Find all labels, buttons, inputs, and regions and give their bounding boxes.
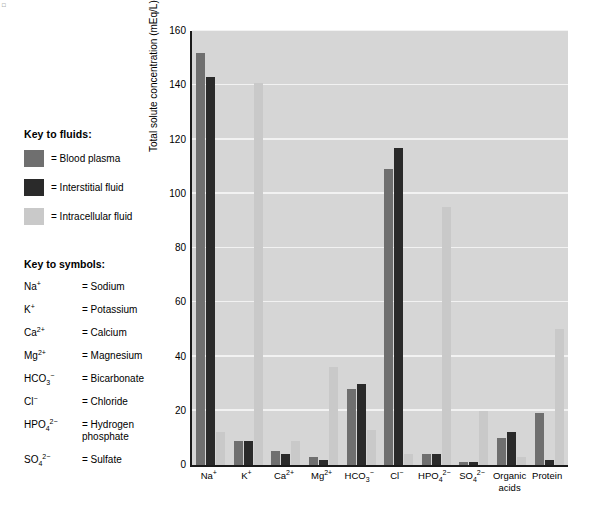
bar-set: [230, 31, 268, 465]
bar-group: [493, 31, 531, 465]
bar[interactable]: [234, 441, 243, 465]
bar-set: [380, 31, 418, 465]
bar-set: [455, 31, 493, 465]
bar[interactable]: [281, 454, 290, 465]
x-tick-label: Mg2+: [303, 470, 341, 493]
bar[interactable]: [507, 432, 516, 465]
bar-set: [493, 31, 531, 465]
swatch-interstitial-fluid: [24, 179, 44, 196]
bar-set: [342, 31, 380, 465]
legend-label-intracellular-fluid: = Intracellular fluid: [51, 211, 132, 222]
y-tick-label: 0: [154, 460, 186, 470]
bar-set: [192, 31, 230, 465]
bar[interactable]: [357, 384, 366, 465]
x-tick-label: K+: [228, 470, 266, 493]
bar[interactable]: [555, 329, 564, 465]
bar[interactable]: [497, 438, 506, 465]
bar-chart: Total solute concentration (mEq/L) 02040…: [150, 22, 580, 492]
symbol-formula: HCO3−: [24, 373, 82, 385]
bar-set: [267, 31, 305, 465]
bar[interactable]: [517, 457, 526, 465]
y-axis-ticks: 020406080100120140160: [150, 22, 186, 492]
swatch-blood-plasma: [24, 150, 44, 167]
y-tick-label: 100: [154, 189, 186, 199]
bar[interactable]: [309, 457, 318, 465]
symbol-formula: Cl−: [24, 396, 82, 408]
symbol-meaning: = Chloride: [82, 396, 128, 408]
bar[interactable]: [367, 430, 376, 465]
x-tick-label: Na+: [190, 470, 228, 493]
symbol-meaning: = Bicarbonate: [82, 373, 144, 385]
y-tick-label: 20: [154, 406, 186, 416]
bar-set: [305, 31, 343, 465]
bar[interactable]: [291, 441, 300, 465]
y-tick-label: 140: [154, 80, 186, 90]
symbol-formula: HPO42−: [24, 419, 82, 431]
legend-item-intracellular-fluid: = Intracellular fluid: [18, 208, 168, 225]
fluid-legend-title: Key to fluids:: [24, 128, 168, 140]
symbol-meaning: = Magnesium: [82, 350, 142, 362]
legend-item-blood-plasma: = Blood plasma: [18, 150, 168, 167]
x-axis-labels: Na+K+Ca2+Mg2+HCO3−Cl−HPO42−SO42−Organica…: [190, 470, 566, 493]
bar[interactable]: [329, 367, 338, 465]
bar-group: [230, 31, 268, 465]
bar[interactable]: [394, 148, 403, 465]
x-tick-label: Protein: [528, 470, 566, 493]
bar[interactable]: [479, 411, 488, 465]
bar[interactable]: [271, 451, 280, 465]
bar-group: [342, 31, 380, 465]
bar[interactable]: [459, 462, 468, 465]
bar[interactable]: [216, 432, 225, 465]
bar[interactable]: [244, 441, 253, 465]
corner-mark-icon: □: [2, 2, 6, 8]
bar[interactable]: [254, 83, 263, 465]
bar-groups: [192, 31, 568, 465]
bar[interactable]: [432, 454, 441, 465]
plot-area: [190, 31, 568, 467]
symbol-formula: Na+: [24, 281, 82, 293]
x-tick-label: HPO42−: [416, 470, 454, 493]
bar-group: [455, 31, 493, 465]
bar-group: [192, 31, 230, 465]
x-tick-label: HCO3−: [340, 470, 378, 493]
y-tick-label: 60: [154, 297, 186, 307]
x-tick-label: Cl−: [378, 470, 416, 493]
y-tick-label: 120: [154, 135, 186, 145]
symbol-formula: K+: [24, 304, 82, 316]
symbol-meaning: = Calcium: [82, 327, 127, 339]
y-tick-label: 80: [154, 243, 186, 253]
bar[interactable]: [206, 77, 215, 465]
symbol-meaning: = Sodium: [82, 281, 125, 293]
bar[interactable]: [347, 389, 356, 465]
legend-label-interstitial-fluid: = Interstitial fluid: [51, 182, 124, 193]
bar[interactable]: [319, 460, 328, 465]
bar-group: [267, 31, 305, 465]
bar[interactable]: [442, 207, 451, 465]
symbol-formula: Ca2+: [24, 327, 82, 339]
bar[interactable]: [384, 169, 393, 465]
bar-group: [380, 31, 418, 465]
bar[interactable]: [422, 454, 431, 465]
bar-group: [418, 31, 456, 465]
legend-item-interstitial-fluid: = Interstitial fluid: [18, 179, 168, 196]
chart-page: □ Key to fluids: = Blood plasma = Inters…: [0, 0, 595, 514]
symbol-meaning: = Sulfate: [82, 454, 122, 466]
bar[interactable]: [535, 413, 544, 465]
legend-label-blood-plasma: = Blood plasma: [51, 153, 120, 164]
bar[interactable]: [404, 454, 413, 465]
y-tick-label: 160: [154, 26, 186, 36]
bar[interactable]: [545, 460, 554, 465]
bar[interactable]: [469, 462, 478, 465]
symbol-formula: SO42−: [24, 454, 82, 466]
x-tick-label: Ca2+: [265, 470, 303, 493]
bar-set: [418, 31, 456, 465]
symbol-formula: Mg2+: [24, 350, 82, 362]
bar-group: [305, 31, 343, 465]
bar[interactable]: [196, 53, 205, 465]
x-tick-label: SO42−: [453, 470, 491, 493]
bar-group: [530, 31, 568, 465]
fluid-legend: Key to fluids: = Blood plasma = Intersti…: [18, 128, 168, 237]
x-tick-label: Organicacids: [491, 470, 529, 493]
symbol-meaning: = Potassium: [82, 304, 137, 316]
swatch-intracellular-fluid: [24, 208, 44, 225]
